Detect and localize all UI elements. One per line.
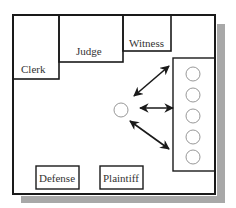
jury-seat [186, 109, 200, 123]
courtroom-outline [13, 15, 215, 194]
jury-seat [186, 67, 200, 81]
plaintiff-label: Plaintiff [103, 172, 139, 184]
jury-seat [186, 150, 200, 164]
jury-seat [186, 130, 200, 144]
clerk-label: Clerk [21, 63, 46, 75]
witness-label: Witness [129, 37, 164, 49]
judge-label: Judge [76, 45, 102, 57]
speaker-position [114, 103, 128, 117]
defense-label: Defense [39, 172, 75, 184]
jury-seat [186, 88, 200, 102]
courtroom-diagram: Clerk Judge Witness [0, 0, 236, 208]
